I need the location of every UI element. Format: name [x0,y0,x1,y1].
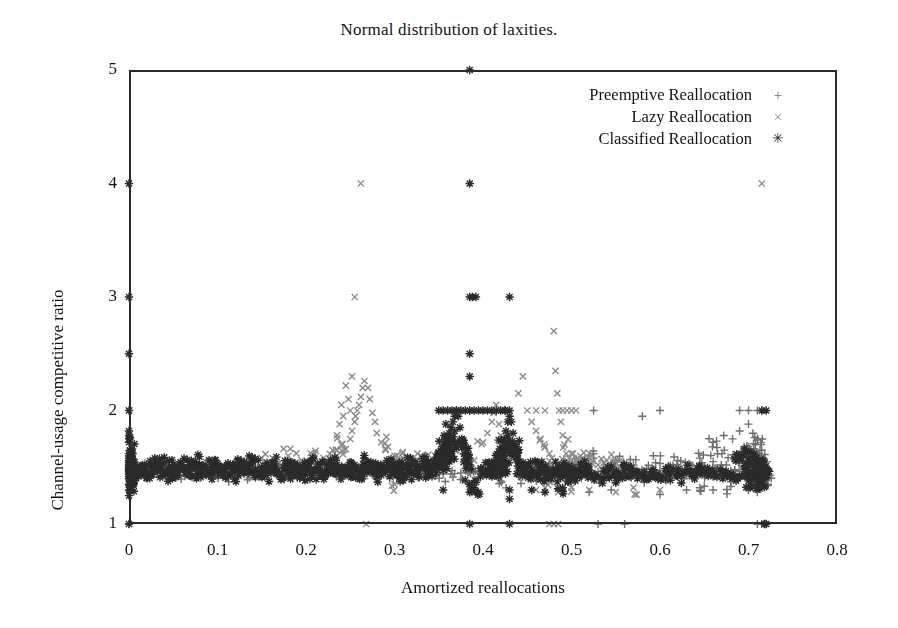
legend-item-classified: Classified Reallocation ✳ [505,128,790,150]
y-tick-label: 3 [77,286,117,306]
legend-marker-cross-icon: × [766,106,790,128]
x-tick-label: 0.6 [630,540,690,560]
legend-marker-plus-icon: + [766,84,790,106]
y-tick-label: 2 [77,400,117,420]
x-tick-label: 0 [99,540,159,560]
x-tick-label: 0.3 [365,540,425,560]
x-tick-label: 0.8 [807,540,867,560]
x-tick-label: 0.7 [719,540,779,560]
legend-label-preemptive: Preemptive Reallocation [589,84,752,106]
y-tick-label: 5 [77,59,117,79]
legend-marker-star-icon: ✳ [766,128,790,150]
legend-item-preemptive: Preemptive Reallocation + [505,84,790,106]
chart-legend: Preemptive Reallocation + Lazy Reallocat… [505,84,790,150]
legend-label-lazy: Lazy Reallocation [632,106,753,128]
x-tick-label: 0.5 [542,540,602,560]
y-tick-label: 4 [77,173,117,193]
x-tick-label: 0.2 [276,540,336,560]
x-tick-label: 0.4 [453,540,513,560]
legend-label-classified: Classified Reallocation [598,128,752,150]
y-tick-label: 1 [77,513,117,533]
legend-item-lazy: Lazy Reallocation × [505,106,790,128]
chart-figure: Normal distribution of laxities. Channel… [0,0,898,628]
y-axis-title: Channel-usage competitive ratio [48,220,68,580]
y-axis-title-wrapper: Channel-usage competitive ratio [28,116,58,436]
x-axis-title: Amortized reallocations [129,578,837,598]
x-tick-label: 0.1 [188,540,248,560]
